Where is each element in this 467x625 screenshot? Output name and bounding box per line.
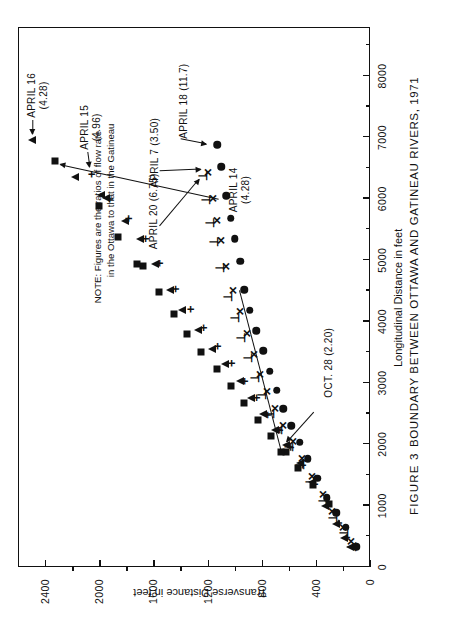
y-axis-tick-label: 2400 bbox=[39, 579, 51, 625]
note-line-2: in the Ottawa to that in the Gatineau bbox=[105, 124, 118, 304]
annotation-april-15-line2: (4.96) bbox=[91, 105, 103, 150]
x-axis-tick bbox=[363, 443, 370, 444]
oct-28-fit-line bbox=[239, 291, 282, 453]
x-axis-tick-label: 1000 bbox=[376, 493, 388, 518]
data-point-square bbox=[214, 366, 221, 373]
y-axis-minor-tick bbox=[180, 567, 181, 571]
data-point-square bbox=[254, 416, 261, 423]
plot-canvas: ++++++++++++++++++++⊥⊥⊥⊥⊥⊥⊥⊥⊥⊥⊥⊥⊥⊥⊥⊥⊥⊥⊥⊥… bbox=[18, 27, 370, 567]
x-axis-tick bbox=[363, 566, 370, 567]
data-point-circle bbox=[227, 215, 235, 223]
y-axis-tick-label: 1200 bbox=[202, 579, 214, 625]
y-axis-minor-tick bbox=[126, 567, 127, 571]
x-axis-minor-tick bbox=[366, 474, 370, 475]
note-block: NOTE: Figures are the ratios of flow rat… bbox=[92, 124, 118, 304]
annotation-april-14-line2: (4.28) bbox=[240, 167, 252, 212]
y-axis-tick bbox=[316, 560, 317, 567]
x-axis-title: Longitudinal Distance in feet bbox=[392, 229, 404, 367]
x-axis-tick bbox=[363, 259, 370, 260]
data-point-circle bbox=[304, 455, 312, 463]
x-axis-tick-label: 2000 bbox=[376, 432, 388, 457]
data-point-square bbox=[155, 289, 162, 296]
x-axis-tick-label: 4000 bbox=[376, 309, 388, 334]
figure-page: ++++++++++++++++++++⊥⊥⊥⊥⊥⊥⊥⊥⊥⊥⊥⊥⊥⊥⊥⊥⊥⊥⊥⊥… bbox=[0, 0, 467, 625]
data-point-plus: + bbox=[224, 359, 237, 367]
y-axis-tick bbox=[153, 560, 154, 567]
annotation-april-15-line1: APRIL 15 bbox=[79, 105, 91, 150]
y-axis-minor-tick bbox=[235, 567, 236, 571]
y-axis-tick-label: 0 bbox=[364, 579, 376, 625]
x-axis-tick bbox=[363, 504, 370, 505]
data-point-triangle bbox=[71, 173, 79, 181]
data-point-circle bbox=[213, 141, 221, 149]
data-point-square bbox=[51, 157, 58, 164]
x-axis-minor-tick bbox=[366, 44, 370, 45]
data-point-square bbox=[134, 260, 141, 267]
x-axis-tick bbox=[363, 320, 370, 321]
annotation-april-14-line1: APRIL 14 bbox=[228, 167, 240, 212]
y-axis-tick-label: 2000 bbox=[93, 579, 105, 625]
data-point-circle bbox=[259, 347, 267, 355]
y-axis-tick-label: 800 bbox=[256, 579, 268, 625]
x-axis-tick bbox=[363, 75, 370, 76]
x-axis-tick-label: 3000 bbox=[376, 370, 388, 395]
x-axis-tick-label: 0 bbox=[376, 564, 388, 570]
x-axis-tick-label: 6000 bbox=[376, 186, 388, 211]
data-point-circle bbox=[273, 387, 281, 395]
data-point-triangle bbox=[28, 136, 36, 144]
data-point-x: ✕ bbox=[212, 216, 223, 225]
x-axis-tick bbox=[363, 382, 370, 383]
data-point-circle bbox=[280, 405, 288, 413]
data-point-x: ✕ bbox=[228, 286, 239, 295]
y-axis-tick bbox=[370, 560, 371, 567]
x-axis-tick bbox=[363, 136, 370, 137]
y-axis-tick bbox=[99, 560, 100, 567]
data-point-circle bbox=[217, 163, 225, 171]
data-point-square bbox=[184, 330, 191, 337]
figure-number: FIGURE 3 bbox=[408, 452, 420, 515]
data-point-circle bbox=[253, 327, 261, 335]
data-point-square bbox=[241, 399, 248, 406]
data-point-circle bbox=[313, 474, 321, 482]
data-point-plus: + bbox=[121, 215, 134, 223]
annotation-oct-28: OCT. 28 (2.20) bbox=[323, 328, 335, 398]
data-point-plus: + bbox=[152, 259, 165, 267]
x-axis-tick-label: 5000 bbox=[376, 248, 388, 273]
x-axis-minor-tick bbox=[366, 289, 370, 290]
data-point-square bbox=[197, 349, 204, 356]
leader-arrow-april-16 bbox=[32, 120, 33, 134]
x-axis-minor-tick bbox=[366, 351, 370, 352]
data-point-circle bbox=[236, 258, 244, 266]
annotation-april-18: APRIL 18 (11.7) bbox=[178, 64, 190, 139]
x-axis-minor-tick bbox=[366, 535, 370, 536]
data-point-plus: + bbox=[169, 285, 182, 293]
rotated-figure-wrapper: ++++++++++++++++++++⊥⊥⊥⊥⊥⊥⊥⊥⊥⊥⊥⊥⊥⊥⊥⊥⊥⊥⊥⊥… bbox=[0, 0, 467, 625]
data-point-circle bbox=[353, 543, 361, 551]
y-axis-minor-tick bbox=[343, 567, 344, 571]
y-axis-tick bbox=[208, 560, 209, 567]
x-axis-minor-tick bbox=[366, 167, 370, 168]
data-point-circle bbox=[288, 422, 296, 430]
y-axis-tick bbox=[45, 560, 46, 567]
note-line-1: NOTE: Figures are the ratios of flow rat… bbox=[92, 124, 105, 304]
data-point-square bbox=[227, 382, 234, 389]
annotation-april-16-line1: APRIL 16 bbox=[26, 73, 38, 118]
figure-body: ++++++++++++++++++++⊥⊥⊥⊥⊥⊥⊥⊥⊥⊥⊥⊥⊥⊥⊥⊥⊥⊥⊥⊥… bbox=[0, 0, 467, 625]
data-point-circle bbox=[332, 509, 340, 517]
annotation-april-15: APRIL 15 (4.96) bbox=[79, 105, 103, 150]
x-axis-tick-label: 7000 bbox=[376, 125, 388, 150]
y-axis-tick-label: 400 bbox=[310, 579, 322, 625]
data-point-x: ✕ bbox=[216, 236, 227, 245]
data-point-plus: + bbox=[183, 305, 196, 313]
data-point-circle bbox=[296, 439, 304, 447]
x-axis-tick bbox=[363, 197, 370, 198]
annotation-april-16-line2: (4.28) bbox=[38, 73, 50, 118]
data-point-circle bbox=[246, 307, 254, 315]
data-point-square bbox=[170, 310, 177, 317]
x-axis-minor-tick bbox=[366, 105, 370, 106]
x-axis-minor-tick bbox=[366, 412, 370, 413]
data-point-circle bbox=[323, 494, 331, 502]
x-axis-minor-tick bbox=[366, 228, 370, 229]
y-axis-minor-tick bbox=[72, 567, 73, 571]
data-point-circle bbox=[266, 368, 274, 376]
